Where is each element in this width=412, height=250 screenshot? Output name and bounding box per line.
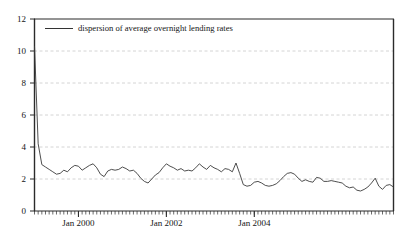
gridlines-y bbox=[34, 51, 394, 179]
ytick-label-0: 0 bbox=[6, 207, 26, 216]
ytick-label-2: 2 bbox=[6, 175, 26, 184]
chart-figure: 12 10 8 6 4 2 0 Jan 2000 Jan 2002 Jan 20… bbox=[0, 0, 412, 250]
ytick-label-6: 6 bbox=[6, 111, 26, 120]
xtick-label-jan-2004: Jan 2004 bbox=[219, 219, 289, 228]
line-chart-plot bbox=[0, 0, 412, 250]
ytick-label-10: 10 bbox=[6, 47, 26, 56]
xaxis-ticks bbox=[35, 211, 394, 217]
ytick-label-8: 8 bbox=[6, 79, 26, 88]
ytick-label-12: 12 bbox=[6, 15, 26, 24]
ytick-label-4: 4 bbox=[6, 143, 26, 152]
data-series-line bbox=[35, 46, 394, 191]
xtick-label-jan-2000: Jan 2000 bbox=[43, 219, 113, 228]
xtick-label-jan-2002: Jan 2002 bbox=[131, 219, 201, 228]
chart-legend: dispersion of average overnight lending … bbox=[45, 24, 233, 33]
legend-line-swatch bbox=[45, 28, 73, 29]
legend-label: dispersion of average overnight lending … bbox=[78, 24, 233, 33]
